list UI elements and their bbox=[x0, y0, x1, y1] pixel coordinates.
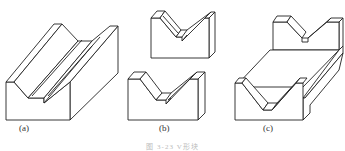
panel-label-b: (b) bbox=[159, 123, 170, 133]
figure-caption: 图 3-23 V形块 bbox=[0, 141, 345, 151]
v-block-b-top-drawing bbox=[151, 11, 215, 58]
panel-label-a: (a) bbox=[19, 123, 29, 133]
v-block-b-bottom-drawing bbox=[128, 72, 205, 120]
v-block-figure: (a) (b) (c) 图 3-23 V形块 bbox=[0, 0, 345, 151]
panel-label-c: (c) bbox=[263, 123, 273, 133]
v-block-c-drawing bbox=[235, 16, 343, 120]
v-block-a-drawing bbox=[6, 24, 118, 120]
